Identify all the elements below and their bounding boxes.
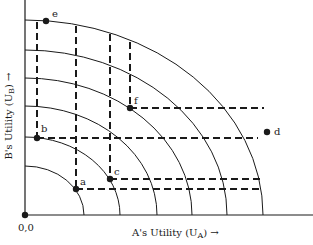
point-label-d: d xyxy=(274,127,280,137)
point-label-a: a xyxy=(80,177,86,187)
point-c xyxy=(107,176,113,182)
utility-curve-4 xyxy=(25,78,192,215)
y-axis-label-arrow: ) → xyxy=(3,73,14,88)
utility-curve-5 xyxy=(25,50,227,215)
point-f xyxy=(127,105,133,111)
point-label-f: f xyxy=(134,96,138,106)
point-label-c: c xyxy=(114,167,120,177)
point-e xyxy=(43,18,49,24)
point-a xyxy=(73,186,79,192)
x-axis-label-text: A's Utility (U xyxy=(132,227,198,238)
utility-curve-6 xyxy=(25,20,263,215)
point-label-b: b xyxy=(41,124,47,134)
point-b xyxy=(34,135,40,141)
point-d xyxy=(264,129,270,135)
point-label-e: e xyxy=(52,9,58,19)
y-axis-label-subscript: B xyxy=(7,88,16,94)
y-axis-label-text: B's Utility (U xyxy=(3,94,14,160)
x-axis-label-arrow: ) → xyxy=(203,227,218,238)
utility-curve-2 xyxy=(25,137,120,215)
utility-curves xyxy=(25,20,263,215)
point-origin xyxy=(22,212,28,218)
dashed-guides xyxy=(37,22,264,189)
origin-label: 0,0 xyxy=(18,223,34,233)
x-axis-label: A's Utility (UA) → xyxy=(132,228,219,240)
y-axis-label: B's Utility (UB) → xyxy=(4,66,16,166)
